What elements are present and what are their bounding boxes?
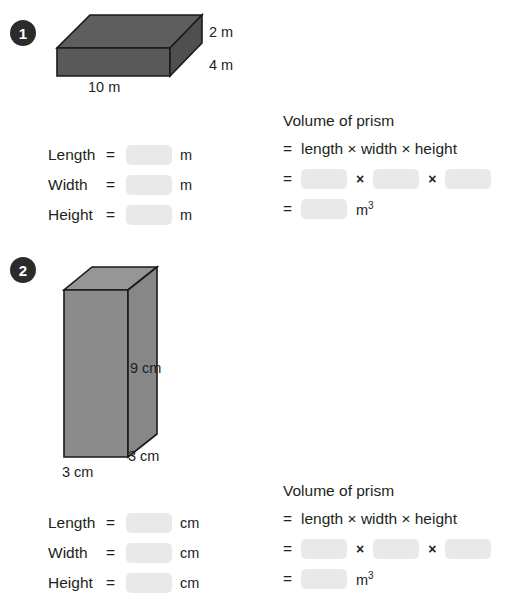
formula-result-unit-2-text: m bbox=[356, 572, 368, 588]
formula-heading-1: Volume of prism bbox=[283, 108, 491, 134]
field-equals-length-2: = bbox=[106, 514, 126, 532]
formula-blank-length-1[interactable] bbox=[301, 169, 347, 189]
formula-blank-width-1[interactable] bbox=[373, 169, 419, 189]
prism-1-svg bbox=[52, 10, 217, 90]
formula-values-line-2: = × × bbox=[283, 534, 491, 564]
field-label-length-1: Length bbox=[48, 146, 106, 164]
field-unit-length-1: m bbox=[180, 147, 192, 163]
answer-blank-length-2[interactable] bbox=[126, 513, 172, 533]
answer-blank-height-1[interactable] bbox=[126, 205, 172, 225]
answer-blank-height-2[interactable] bbox=[126, 573, 172, 593]
field-equals-width-1: = bbox=[106, 176, 126, 194]
field-row-length-1: Length = m bbox=[48, 140, 192, 170]
field-unit-length-2: cm bbox=[180, 515, 199, 531]
formula-blank-result-1[interactable] bbox=[301, 199, 347, 219]
field-unit-width-2: cm bbox=[180, 545, 199, 561]
formula-expression-line-1: = length × width × height bbox=[283, 134, 491, 164]
problem-number-badge-1: 1 bbox=[10, 20, 36, 46]
formula-blank-height-1[interactable] bbox=[445, 169, 491, 189]
formula-times-2a: × bbox=[356, 541, 364, 557]
field-equals-height-1: = bbox=[106, 206, 126, 224]
formula-equals-2c: = bbox=[283, 570, 301, 588]
formula-equals-1c: = bbox=[283, 200, 301, 218]
prism-2-dimension-width: 3 cm bbox=[62, 464, 93, 480]
formula-result-unit-1: m3 bbox=[356, 200, 374, 218]
formula-result-line-2: = m3 bbox=[283, 564, 491, 594]
prism-1-front-face bbox=[57, 48, 170, 76]
field-row-height-1: Height = m bbox=[48, 200, 192, 230]
field-unit-width-1: m bbox=[180, 177, 192, 193]
formula-expression-2: length × width × height bbox=[301, 510, 457, 528]
field-label-height-2: Height bbox=[48, 574, 106, 592]
formula-times-1b: × bbox=[428, 171, 436, 187]
field-label-length-2: Length bbox=[48, 514, 106, 532]
formula-equals-2a: = bbox=[283, 510, 301, 528]
field-unit-height-1: m bbox=[180, 207, 192, 223]
field-row-length-2: Length = cm bbox=[48, 508, 199, 538]
formula-blank-height-2[interactable] bbox=[445, 539, 491, 559]
answer-blank-width-2[interactable] bbox=[126, 543, 172, 563]
prism-1-dimension-height: 2 m bbox=[209, 24, 233, 40]
field-row-width-1: Width = m bbox=[48, 170, 192, 200]
formula-result-unit-1-text: m bbox=[356, 202, 368, 218]
answer-blank-length-1[interactable] bbox=[126, 145, 172, 165]
answer-fields-1: Length = m Width = m Height = m bbox=[48, 140, 192, 230]
problem-number-1-label: 1 bbox=[19, 26, 27, 41]
formula-times-1a: × bbox=[356, 171, 364, 187]
formula-blank-result-2[interactable] bbox=[301, 569, 347, 589]
field-row-height-2: Height = cm bbox=[48, 568, 199, 598]
formula-result-unit-2: m3 bbox=[356, 570, 374, 588]
prism-1-dimension-length: 10 m bbox=[88, 79, 120, 95]
volume-formula-2: Volume of prism = length × width × heigh… bbox=[283, 478, 491, 594]
field-row-width-2: Width = cm bbox=[48, 538, 199, 568]
formula-expression-line-2: = length × width × height bbox=[283, 504, 491, 534]
field-label-height-1: Height bbox=[48, 206, 106, 224]
field-equals-width-2: = bbox=[106, 544, 126, 562]
prism-figure-1 bbox=[52, 10, 217, 90]
prism-2-front-face bbox=[64, 290, 128, 457]
field-equals-length-1: = bbox=[106, 146, 126, 164]
field-unit-height-2: cm bbox=[180, 575, 199, 591]
answer-fields-2: Length = cm Width = cm Height = cm bbox=[48, 508, 199, 598]
prism-2-dimension-depth: 3 cm bbox=[128, 448, 159, 464]
formula-expression-1: length × width × height bbox=[301, 140, 457, 158]
field-label-width-1: Width bbox=[48, 176, 106, 194]
formula-equals-2b: = bbox=[283, 540, 301, 558]
formula-equals-1a: = bbox=[283, 140, 301, 158]
formula-result-line-1: = m3 bbox=[283, 194, 491, 224]
prism-2-dimension-height: 9 cm bbox=[130, 360, 161, 376]
formula-result-exponent-2: 3 bbox=[368, 570, 374, 581]
formula-equals-1b: = bbox=[283, 170, 301, 188]
prism-1-dimension-width: 4 m bbox=[209, 57, 233, 73]
formula-blank-width-2[interactable] bbox=[373, 539, 419, 559]
formula-heading-2: Volume of prism bbox=[283, 478, 491, 504]
problem-number-badge-2: 2 bbox=[10, 257, 36, 283]
volume-formula-1: Volume of prism = length × width × heigh… bbox=[283, 108, 491, 224]
formula-blank-length-2[interactable] bbox=[301, 539, 347, 559]
formula-times-2b: × bbox=[428, 541, 436, 557]
answer-blank-width-1[interactable] bbox=[126, 175, 172, 195]
formula-result-exponent-1: 3 bbox=[368, 200, 374, 211]
formula-values-line-1: = × × bbox=[283, 164, 491, 194]
field-label-width-2: Width bbox=[48, 544, 106, 562]
field-equals-height-2: = bbox=[106, 574, 126, 592]
problem-number-2-label: 2 bbox=[19, 263, 27, 278]
